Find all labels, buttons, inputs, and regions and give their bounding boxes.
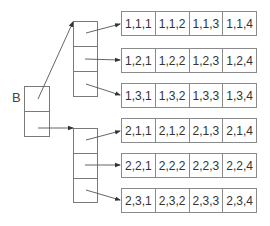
arrow-icon — [86, 24, 120, 33]
pointer-arrows — [0, 0, 270, 226]
arrow-icon — [86, 190, 120, 200]
arrow-icon — [86, 131, 120, 140]
arrow-icon — [85, 59, 120, 60]
arrow-icon — [38, 22, 73, 99]
arrow-icon — [86, 84, 120, 95]
